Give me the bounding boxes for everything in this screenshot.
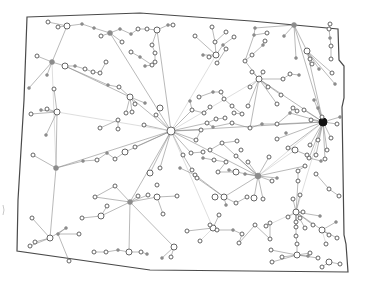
open-node xyxy=(154,194,160,200)
open-node xyxy=(161,212,165,216)
open-node xyxy=(295,242,299,246)
open-node xyxy=(292,147,298,153)
gray-node xyxy=(222,44,225,47)
open-node xyxy=(268,221,272,225)
open-node xyxy=(113,184,117,188)
open-node xyxy=(64,23,70,29)
open-node xyxy=(136,194,140,198)
network-map-diagram xyxy=(0,0,371,291)
open-node xyxy=(291,106,295,110)
gray-node xyxy=(202,157,205,160)
open-node xyxy=(253,223,257,227)
open-node xyxy=(199,128,203,132)
open-node xyxy=(47,235,53,241)
open-node xyxy=(91,70,95,74)
open-node xyxy=(286,215,290,219)
open-node xyxy=(202,111,206,115)
open-node xyxy=(304,48,310,54)
gray-node xyxy=(106,152,109,155)
gray-node xyxy=(283,35,286,38)
gray-node xyxy=(319,215,322,218)
open-node xyxy=(153,51,157,55)
open-node xyxy=(234,154,238,158)
gray-node xyxy=(46,74,49,77)
open-node xyxy=(303,164,307,168)
open-node xyxy=(33,240,37,244)
margin-mark xyxy=(3,205,4,215)
open-node xyxy=(67,259,71,263)
open-node xyxy=(212,158,216,162)
open-node xyxy=(113,157,117,161)
gray-node xyxy=(317,107,320,110)
open-node xyxy=(197,95,201,99)
open-node xyxy=(279,93,283,97)
gray-node xyxy=(244,173,247,176)
open-node xyxy=(175,194,179,198)
open-node xyxy=(248,126,252,130)
gray-node xyxy=(107,84,110,87)
open-node xyxy=(142,123,146,127)
open-node xyxy=(266,85,270,89)
open-node xyxy=(219,90,223,94)
open-node xyxy=(155,183,159,187)
open-node xyxy=(104,60,108,64)
open-node xyxy=(80,216,84,220)
gray-node xyxy=(228,169,231,172)
gray-node xyxy=(313,99,316,102)
open-node xyxy=(124,111,128,115)
open-node xyxy=(270,260,274,264)
gray-node xyxy=(329,37,332,40)
open-node xyxy=(294,234,298,238)
open-node xyxy=(325,148,329,152)
gray-node xyxy=(212,91,215,94)
gray-node xyxy=(65,227,68,230)
open-node xyxy=(267,155,271,159)
open-node xyxy=(224,30,228,34)
open-node xyxy=(190,108,194,112)
open-node xyxy=(98,71,102,75)
open-node xyxy=(328,22,332,26)
open-node xyxy=(324,242,328,246)
open-node xyxy=(230,104,234,108)
open-node xyxy=(296,179,300,183)
open-node xyxy=(302,108,306,112)
open-node xyxy=(201,150,205,154)
gray-node xyxy=(318,68,321,71)
open-node xyxy=(212,194,218,200)
open-node xyxy=(298,216,302,220)
gray-node xyxy=(54,166,59,171)
open-node xyxy=(194,138,198,142)
gray-node xyxy=(320,160,323,163)
open-node xyxy=(205,121,209,125)
open-node xyxy=(294,220,298,224)
gray-node xyxy=(295,57,298,60)
gray-node xyxy=(225,204,228,207)
open-node xyxy=(338,262,342,266)
open-node xyxy=(171,23,175,27)
open-node xyxy=(303,226,307,230)
open-node xyxy=(208,148,212,152)
open-node xyxy=(62,63,68,69)
open-node xyxy=(320,265,324,269)
open-node xyxy=(99,34,103,38)
open-node xyxy=(185,229,189,233)
gray-node xyxy=(261,123,264,126)
open-node xyxy=(133,145,137,149)
open-node xyxy=(237,241,241,245)
open-node xyxy=(117,85,121,89)
open-node xyxy=(181,153,185,157)
gray-node xyxy=(81,23,84,26)
open-node xyxy=(269,248,273,252)
open-node xyxy=(240,112,244,116)
open-node xyxy=(158,166,162,170)
open-node xyxy=(224,47,228,51)
open-node xyxy=(189,151,193,155)
open-node xyxy=(77,232,81,236)
open-node xyxy=(239,148,243,152)
open-node xyxy=(250,70,254,74)
gray-node xyxy=(128,200,133,205)
gray-node xyxy=(117,249,120,252)
open-node xyxy=(154,113,158,117)
open-node xyxy=(52,87,56,91)
gray-node xyxy=(57,233,60,236)
